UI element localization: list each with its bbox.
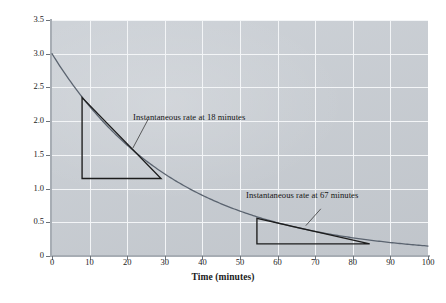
- leader-line-67min: [306, 209, 321, 226]
- chart-figure: 00.51.01.52.02.53.03.5 01020304050607080…: [0, 0, 446, 303]
- annotation-rate-67-minutes: Instantaneous rate at 67 minutes: [246, 190, 358, 200]
- annotation-rate-18-minutes: Instantaneous rate at 18 minutes: [133, 112, 245, 122]
- leader-line-18min: [133, 120, 148, 148]
- chart-vector-layer: [0, 0, 446, 303]
- tangent-triangle-18min: [82, 98, 161, 179]
- tangent-triangle-67min: [257, 218, 370, 244]
- concentration-decay-curve: [52, 54, 428, 246]
